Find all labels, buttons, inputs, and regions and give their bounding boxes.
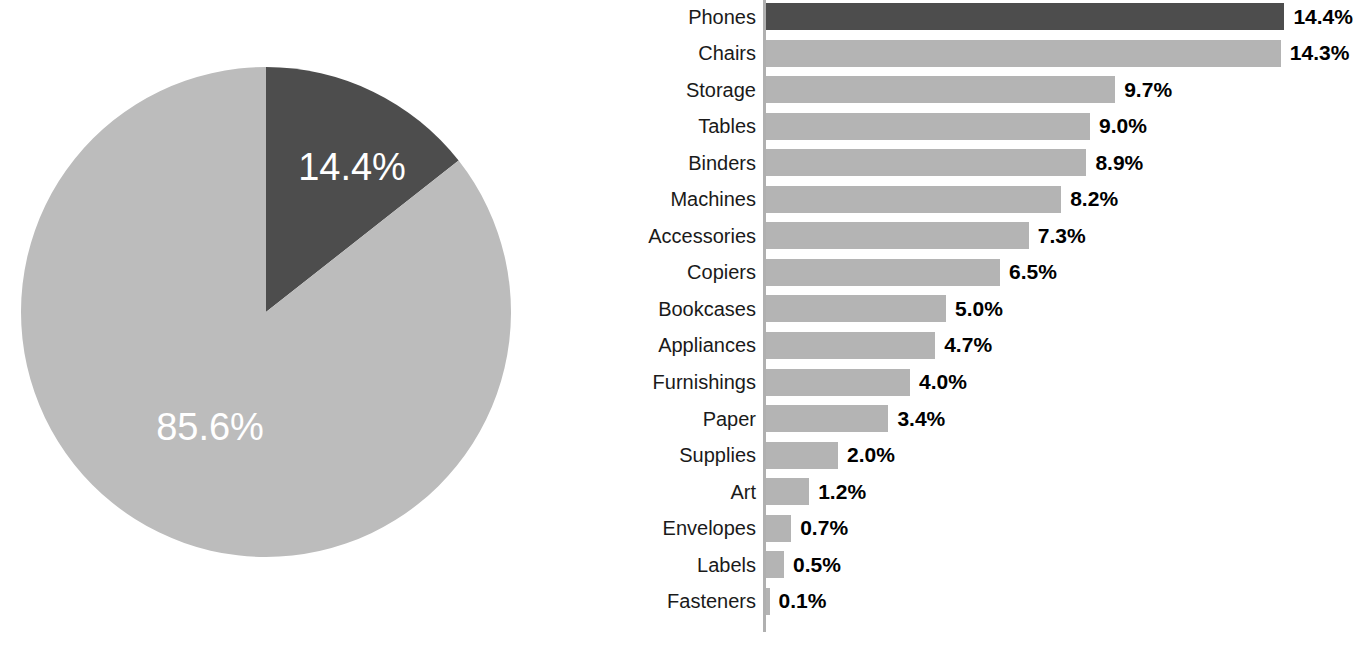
chart-figure: 14.4%85.6% Phones14.4%Chairs14.3%Storage…	[0, 0, 1353, 646]
bar-value-label: 5.0%	[955, 291, 1003, 328]
bar-category-label: Furnishings	[620, 364, 756, 401]
bar-category-label: Accessories	[620, 218, 756, 255]
bar-category-label: Art	[620, 474, 756, 511]
bar-row[interactable]: Accessories7.3%	[620, 218, 1353, 255]
bar-track: 8.9%	[766, 145, 1353, 182]
bar-track: 9.7%	[766, 72, 1353, 109]
bar-rect[interactable]	[766, 259, 1000, 286]
bar-value-label: 1.2%	[818, 474, 866, 511]
bar-row[interactable]: Binders8.9%	[620, 145, 1353, 182]
bar-track: 0.5%	[766, 547, 1353, 584]
bar-track: 2.0%	[766, 437, 1353, 474]
bar-value-label: 0.7%	[800, 510, 848, 547]
bar-value-label: 8.2%	[1070, 181, 1118, 218]
bar-row[interactable]: Art1.2%	[620, 474, 1353, 511]
bar-value-label: 2.0%	[847, 437, 895, 474]
bar-category-label: Binders	[620, 145, 756, 182]
bar-track: 0.7%	[766, 510, 1353, 547]
bar-track: 3.4%	[766, 401, 1353, 438]
pie-chart-panel: 14.4%85.6%	[0, 0, 620, 646]
bar-chart-panel: Phones14.4%Chairs14.3%Storage9.7%Tables9…	[620, 0, 1353, 646]
bar-rect[interactable]	[766, 222, 1029, 249]
bar-track: 7.3%	[766, 218, 1353, 255]
bar-row[interactable]: Copiers6.5%	[620, 254, 1353, 291]
bar-row[interactable]: Phones14.4%	[620, 0, 1353, 35]
bar-rect[interactable]	[766, 113, 1090, 140]
bar-row[interactable]: Supplies2.0%	[620, 437, 1353, 474]
bar-rect[interactable]	[766, 295, 946, 322]
bar-row[interactable]: Appliances4.7%	[620, 327, 1353, 364]
bar-value-label: 4.0%	[919, 364, 967, 401]
bar-rect[interactable]	[766, 405, 888, 432]
bar-row[interactable]: Envelopes0.7%	[620, 510, 1353, 547]
bar-category-label: Supplies	[620, 437, 756, 474]
pie-slice-value-label: 14.4%	[298, 146, 406, 188]
bar-track: 5.0%	[766, 291, 1353, 328]
bar-rect[interactable]	[766, 332, 935, 359]
bar-rect[interactable]	[766, 369, 910, 396]
bar-chart-rows: Phones14.4%Chairs14.3%Storage9.7%Tables9…	[620, 0, 1353, 646]
bar-track: 6.5%	[766, 254, 1353, 291]
bar-row[interactable]: Furnishings4.0%	[620, 364, 1353, 401]
bar-category-label: Appliances	[620, 327, 756, 364]
bar-value-label: 0.5%	[793, 547, 841, 584]
bar-rect[interactable]	[766, 442, 838, 469]
bar-category-label: Chairs	[620, 35, 756, 72]
bar-rect[interactable]	[766, 3, 1284, 30]
bar-rect[interactable]	[766, 551, 784, 578]
bar-row[interactable]: Labels0.5%	[620, 547, 1353, 584]
bar-rect[interactable]	[766, 588, 770, 615]
bar-category-label: Paper	[620, 401, 756, 438]
bar-category-label: Labels	[620, 547, 756, 584]
bar-rect[interactable]	[766, 186, 1061, 213]
bar-row[interactable]: Bookcases5.0%	[620, 291, 1353, 328]
bar-track: 8.2%	[766, 181, 1353, 218]
bar-value-label: 4.7%	[944, 327, 992, 364]
bar-value-label: 7.3%	[1038, 218, 1086, 255]
bar-value-label: 0.1%	[779, 583, 827, 620]
bar-track: 4.0%	[766, 364, 1353, 401]
bar-category-label: Tables	[620, 108, 756, 145]
bar-row[interactable]: Chairs14.3%	[620, 35, 1353, 72]
bar-category-label: Fasteners	[620, 583, 756, 620]
bar-rect[interactable]	[766, 76, 1115, 103]
bar-row[interactable]: Paper3.4%	[620, 401, 1353, 438]
bar-track: 14.4%	[766, 0, 1353, 35]
bar-row[interactable]: Machines8.2%	[620, 181, 1353, 218]
bar-value-label: 6.5%	[1009, 254, 1057, 291]
bar-row[interactable]: Storage9.7%	[620, 72, 1353, 109]
bar-track: 0.1%	[766, 583, 1353, 620]
bar-track: 9.0%	[766, 108, 1353, 145]
bar-category-label: Machines	[620, 181, 756, 218]
bar-category-label: Phones	[620, 0, 756, 35]
bar-track: 4.7%	[766, 327, 1353, 364]
bar-category-label: Bookcases	[620, 291, 756, 328]
bar-rect[interactable]	[766, 149, 1086, 176]
bar-value-label: 3.4%	[897, 401, 945, 438]
bar-track: 1.2%	[766, 474, 1353, 511]
bar-row[interactable]: Fasteners0.1%	[620, 583, 1353, 620]
bar-value-label: 8.9%	[1095, 145, 1143, 182]
pie-chart-svg: 14.4%85.6%	[0, 0, 620, 646]
bar-track: 14.3%	[766, 35, 1353, 72]
bar-row[interactable]: Tables9.0%	[620, 108, 1353, 145]
pie-slice-value-label: 85.6%	[156, 406, 264, 448]
bar-category-label: Storage	[620, 72, 756, 109]
bar-rect[interactable]	[766, 478, 809, 505]
bar-value-label: 9.0%	[1099, 108, 1147, 145]
bar-value-label: 14.4%	[1293, 0, 1353, 35]
bar-category-label: Envelopes	[620, 510, 756, 547]
bar-rect[interactable]	[766, 40, 1281, 67]
pie-slice-group	[21, 67, 511, 557]
bar-value-label: 14.3%	[1290, 35, 1350, 72]
bar-value-label: 9.7%	[1124, 72, 1172, 109]
bar-category-label: Copiers	[620, 254, 756, 291]
bar-rect[interactable]	[766, 515, 791, 542]
